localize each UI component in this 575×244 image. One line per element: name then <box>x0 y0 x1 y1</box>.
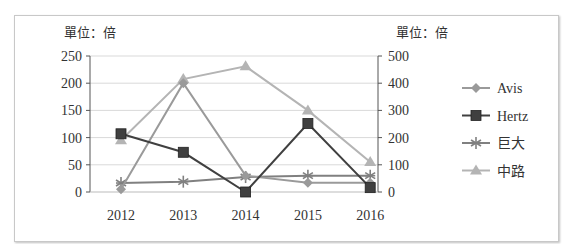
right-tick-label: 300 <box>388 103 409 118</box>
legend-label: 巨大 <box>497 136 525 151</box>
square-marker-icon <box>178 147 188 157</box>
square-marker-icon <box>116 129 126 139</box>
legend-item: Hertz <box>462 109 528 124</box>
legend-label: Avis <box>497 81 522 96</box>
asterisk-marker-icon <box>471 137 481 149</box>
series-lines <box>115 60 376 197</box>
legend: AvisHertz巨大中路 <box>462 81 528 179</box>
x-tick-label: 2015 <box>294 208 322 223</box>
right-tick-label: 100 <box>388 158 409 173</box>
left-tick-label: 200 <box>61 76 82 91</box>
right-tick-label: 500 <box>388 49 409 64</box>
left-tick-label: 250 <box>61 49 82 64</box>
triangle-marker-icon <box>302 104 314 114</box>
legend-label: Hertz <box>497 109 528 124</box>
axes: 0501001502002500100200300400500201220132… <box>61 49 409 223</box>
left-tick-label: 50 <box>68 158 82 173</box>
diamond-marker-icon <box>303 178 313 188</box>
x-tick-label: 2013 <box>169 208 197 223</box>
square-marker-icon <box>303 118 313 128</box>
diamond-marker-icon <box>471 83 481 93</box>
legend-item: Avis <box>462 81 522 96</box>
x-tick-label: 2016 <box>356 208 384 223</box>
square-marker-icon <box>241 187 251 197</box>
right-tick-label: 0 <box>388 185 395 200</box>
series-Avis <box>116 78 375 194</box>
x-tick-label: 2012 <box>107 208 135 223</box>
left-tick-label: 100 <box>61 131 82 146</box>
right-tick-label: 200 <box>388 131 409 146</box>
legend-item: 巨大 <box>462 136 525 151</box>
asterisk-marker-icon <box>178 176 188 188</box>
left-tick-label: 0 <box>75 185 82 200</box>
line-chart: 0501001502002500100200300400500201220132… <box>0 0 575 244</box>
square-marker-icon <box>365 183 375 193</box>
x-tick-label: 2014 <box>232 208 260 223</box>
legend-item: 中路 <box>462 164 525 179</box>
triangle-marker-icon <box>240 60 252 70</box>
square-marker-icon <box>471 111 481 121</box>
right-tick-label: 400 <box>388 76 409 91</box>
legend-label: 中路 <box>497 164 525 179</box>
gridlines <box>90 56 378 165</box>
series-中路 <box>115 60 376 166</box>
left-tick-label: 150 <box>61 103 82 118</box>
